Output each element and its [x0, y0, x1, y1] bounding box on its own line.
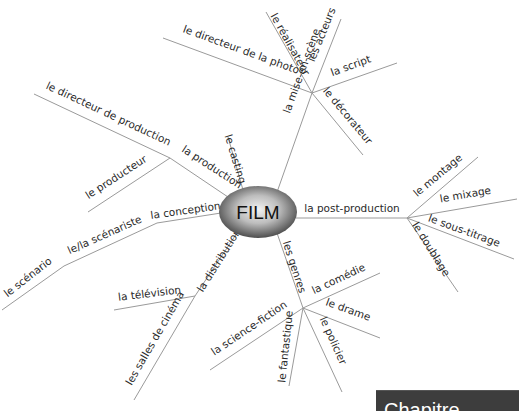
branch-genres: les genres la comédie le drame le polici… [209, 233, 380, 392]
node-science-fiction: la science-fiction [209, 298, 289, 357]
node-post-production: la post-production [304, 202, 400, 214]
branch-distribution: la distribution la télévision les salles… [114, 226, 243, 400]
chapter-banner: Chapitre [376, 390, 519, 411]
node-comedie: la comédie [310, 261, 367, 296]
chapter-banner-text: Chapitre [384, 400, 460, 415]
branch-mise-en-scene: la mise-en-scène le directeur de la phot… [163, 6, 397, 195]
node-policier: le policier [318, 315, 350, 367]
node-distribution: la distribution [194, 226, 243, 294]
node-genres: les genres [281, 239, 309, 294]
node-directeur-production: le directeur de production [44, 79, 173, 148]
branch-post-production: la post-production le montage le mixage … [296, 151, 517, 292]
center-label: FILM [236, 202, 279, 223]
node-salles-cinema: les salles de cinéma [123, 289, 186, 387]
center-node: FILM [219, 186, 297, 238]
connector-line [407, 199, 517, 218]
node-conception: la conception [150, 199, 222, 221]
branch-conception: la conception le/la scénariste le scénar… [1, 199, 221, 310]
node-mixage: le mixage [439, 184, 492, 205]
branch-production: la production le directeur de production… [34, 79, 244, 212]
